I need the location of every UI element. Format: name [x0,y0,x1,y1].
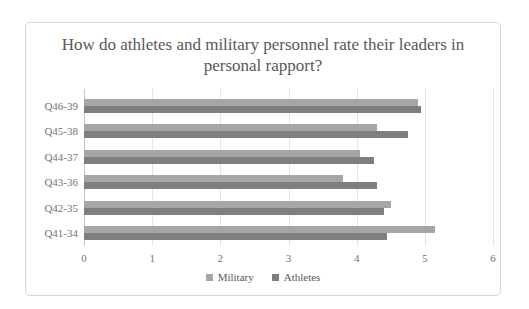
value-tick-2: 2 [218,252,224,264]
bar-military-Q46-39 [84,99,418,106]
value-tick-3: 3 [286,252,292,264]
bar-row-Q42-35 [84,195,493,221]
chart-title: How do athletes and military personnel r… [56,34,470,77]
bar-military-Q44-37 [84,150,360,157]
bar-athletes-Q45-38 [84,131,408,138]
value-tick-6: 6 [490,252,496,264]
category-axis: Q46-39Q45-38Q44-37Q43-36Q42-35Q41-34 [30,93,78,246]
bar-military-Q43-36 [84,175,343,182]
value-tick-4: 4 [354,252,360,264]
bar-athletes-Q41-34 [84,233,387,240]
bar-military-Q41-34 [84,226,435,233]
category-label-Q41-34: Q41-34 [30,221,78,247]
value-tick-0: 0 [81,252,87,264]
value-tick-5: 5 [422,252,428,264]
legend-swatch-icon [206,274,213,281]
bar-military-Q45-38 [84,124,377,131]
bar-military-Q42-35 [84,201,391,208]
bar-row-Q43-36 [84,170,493,196]
legend-label: Military [218,271,254,283]
category-label-Q42-35: Q42-35 [30,195,78,221]
value-tick-1: 1 [149,252,155,264]
bar-row-Q41-34 [84,221,493,247]
plot-area [84,93,493,246]
category-label-Q43-36: Q43-36 [30,170,78,196]
bar-row-Q44-37 [84,144,493,170]
bar-athletes-Q43-36 [84,182,377,189]
category-label-Q44-37: Q44-37 [30,144,78,170]
category-label-Q45-38: Q45-38 [30,119,78,145]
bar-row-Q46-39 [84,93,493,119]
legend-item-military: Military [206,271,254,283]
legend-item-athletes: Athletes [272,271,321,283]
chart-container: How do athletes and military personnel r… [25,22,501,296]
gridline-6 [493,89,494,246]
bar-rows [84,93,493,246]
value-axis: 0123456 [84,252,493,266]
bar-athletes-Q44-37 [84,157,374,164]
category-label-Q46-39: Q46-39 [30,93,78,119]
bar-row-Q45-38 [84,119,493,145]
legend-swatch-icon [272,274,279,281]
legend: MilitaryAthletes [26,271,500,283]
bar-athletes-Q46-39 [84,106,421,113]
bar-athletes-Q42-35 [84,208,384,215]
legend-label: Athletes [284,271,321,283]
screenshot-canvas: How do athletes and military personnel r… [0,0,529,309]
